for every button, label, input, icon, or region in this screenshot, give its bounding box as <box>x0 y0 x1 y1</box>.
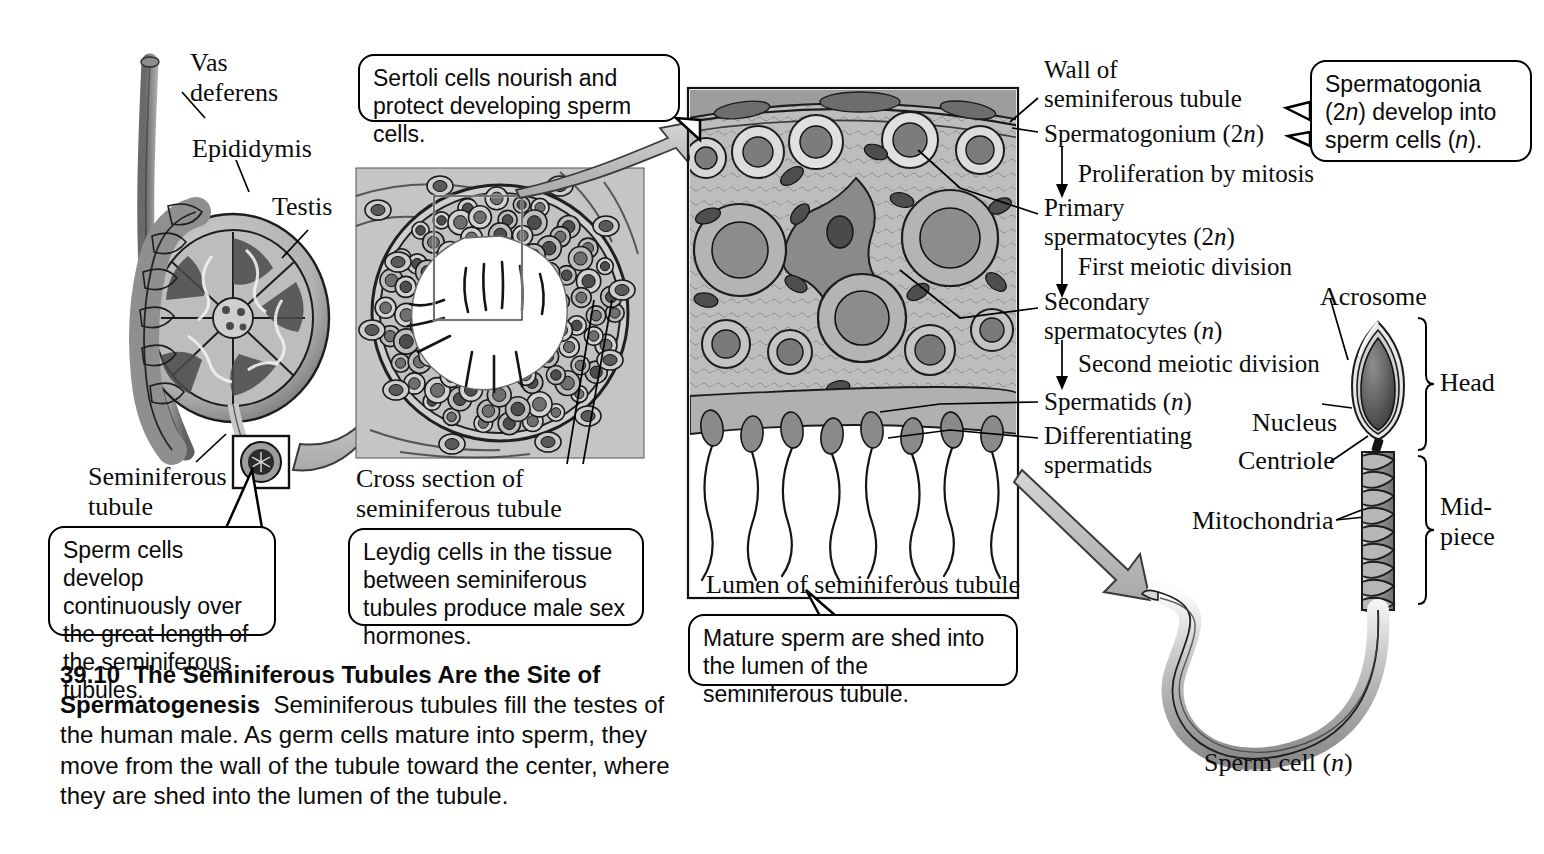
label-seminiferous-tubule: Seminiferous tubule <box>88 462 227 521</box>
label-testis: Testis <box>272 192 332 222</box>
stage-arrows <box>1056 146 1068 390</box>
centriole-shape <box>1371 437 1384 453</box>
label-midpiece: Mid- piece <box>1440 492 1495 551</box>
label-wall: Wall of seminiferous tubule <box>1044 56 1242 113</box>
tubule-cross-section-icon <box>241 442 281 482</box>
callout-sperm-develop: Sperm cells develop continuously over th… <box>48 526 276 636</box>
label-second-meiotic-division: Second meiotic division <box>1078 350 1320 379</box>
testis-illustration <box>137 57 329 456</box>
label-spermatids: Spermatids (n) <box>1044 388 1192 417</box>
label-proliferation-mitosis: Proliferation by mitosis <box>1078 160 1314 189</box>
callout-leydig: Leydig cells in the tissue between semin… <box>348 528 644 626</box>
cross-section-micrograph <box>356 168 644 458</box>
tubule-wall-panel <box>686 86 1020 598</box>
zoom-arrow-sperm-cell <box>1014 470 1150 600</box>
midpiece-helix <box>1362 452 1394 611</box>
label-nucleus: Nucleus <box>1252 408 1337 438</box>
label-mitochondria: Mitochondria <box>1192 506 1334 536</box>
label-vas-deferens: Vas deferens <box>190 48 278 107</box>
region-brackets <box>1418 318 1434 604</box>
label-centriole: Centriole <box>1238 446 1335 476</box>
figure-caption: 39.10 The Seminiferous Tubules Are the S… <box>60 660 688 811</box>
figure-canvas: Vas deferens Epididymis Testis Seminifer… <box>0 0 1544 854</box>
callout-sertoli: Sertoli cells nourish and protect develo… <box>358 54 680 122</box>
label-head: Head <box>1440 368 1495 398</box>
label-spermatogonium: Spermatogonium (2n) <box>1044 120 1264 149</box>
label-primary-spermatocytes: Primary spermatocytes (2n) <box>1044 194 1235 251</box>
figure-number: 39.10 <box>60 661 120 688</box>
label-secondary-spermatocytes: Secondary spermatocytes (n) <box>1044 288 1222 345</box>
callout-mature-sperm: Mature sperm are shed into the lumen of … <box>688 614 1018 686</box>
label-epididymis: Epididymis <box>192 134 312 164</box>
label-differentiating-spermatids: Differentiating spermatids <box>1044 422 1192 479</box>
callout-spermatogonia: Spermatogonia(2n) develop intosperm cell… <box>1310 60 1532 162</box>
label-first-meiotic-division: First meiotic division <box>1078 253 1292 282</box>
label-sperm-cell: Sperm cell (n) <box>1204 748 1353 778</box>
label-cross-section: Cross section of seminiferous tubule <box>356 464 562 523</box>
label-lumen: Lumen of seminiferous tubule <box>706 570 1020 600</box>
label-acrosome: Acrosome <box>1320 282 1427 312</box>
